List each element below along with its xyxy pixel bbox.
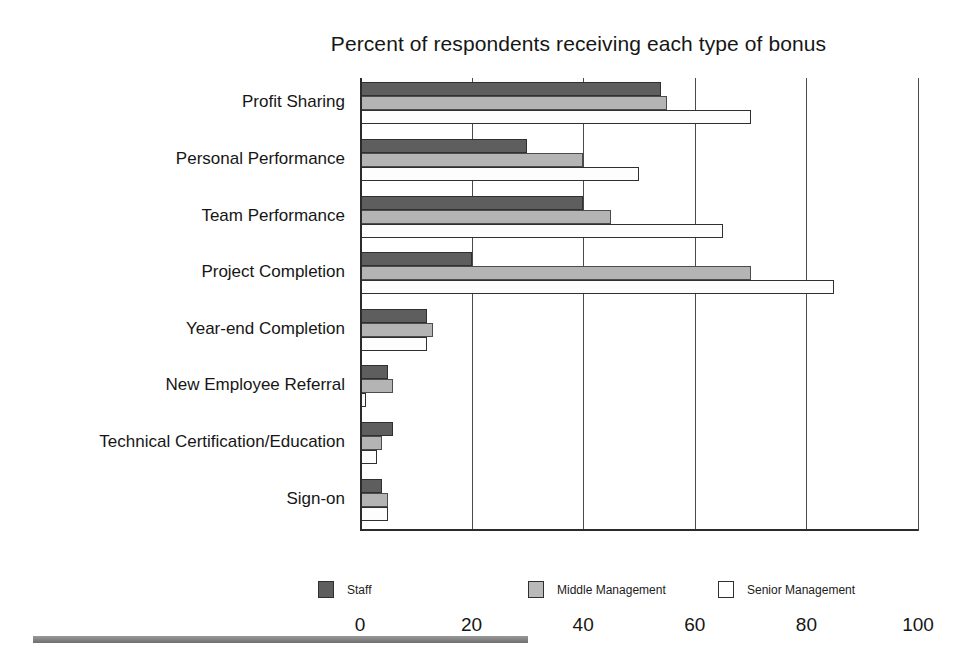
x-tick-label: 20 [461,614,482,636]
legend-label: Middle Management [557,583,666,597]
category-axis-labels: Profit SharingPersonal PerformanceTeam P… [0,0,352,650]
bar-staff [360,422,393,436]
x-tick-label: 0 [355,614,366,636]
gridline [806,78,807,531]
x-tick-label: 100 [902,614,934,636]
legend-label: Staff [347,583,371,597]
legend-label: Senior Management [747,583,855,597]
bar-staff [360,82,661,96]
x-tick-label: 40 [573,614,594,636]
chart-legend: StaffMiddle ManagementSenior Management [0,581,977,607]
x-tick-label: 60 [684,614,705,636]
legend-swatch-middle [528,581,544,598]
legend-swatch-senior [718,581,734,598]
bar-senior [360,167,639,181]
legend-swatch-staff [318,581,334,598]
category-label: Project Completion [0,262,352,282]
bar-middle [360,266,751,280]
x-tick-label: 80 [796,614,817,636]
bar-senior [360,280,834,294]
bar-staff [360,479,382,493]
footer-rule [33,636,528,643]
category-label: Team Performance [0,206,352,226]
bar-staff [360,365,388,379]
bar-senior [360,507,388,521]
gridline [583,78,584,531]
category-label: Profit Sharing [0,92,352,112]
bar-middle [360,436,382,450]
category-label: Year-end Completion [0,319,352,339]
gridline [695,78,696,531]
legend-item[interactable]: Staff [318,581,371,598]
category-label: Personal Performance [0,149,352,169]
category-label: Sign-on [0,489,352,509]
bar-staff [360,196,583,210]
bar-middle [360,96,667,110]
bar-middle [360,323,433,337]
bar-middle [360,210,611,224]
bar-staff [360,309,427,323]
bar-middle [360,153,583,167]
bar-chart: Percent of respondents receiving each ty… [0,0,977,650]
legend-item[interactable]: Middle Management [528,581,666,598]
bar-senior [360,224,723,238]
bar-senior [360,110,751,124]
category-label: Technical Certification/Education [0,432,352,452]
bar-senior [360,450,377,464]
bar-middle [360,379,393,393]
chart-title-text: Percent of respondents receiving each ty… [331,32,826,55]
plot-area: 020406080100 [360,78,918,531]
bar-middle [360,493,388,507]
bar-staff [360,139,527,153]
bar-staff [360,252,472,266]
gridline [918,78,919,531]
x-axis-line [360,529,918,531]
legend-item[interactable]: Senior Management [718,581,855,598]
y-axis-line [360,78,362,531]
bar-senior [360,337,427,351]
category-label: New Employee Referral [0,375,352,395]
